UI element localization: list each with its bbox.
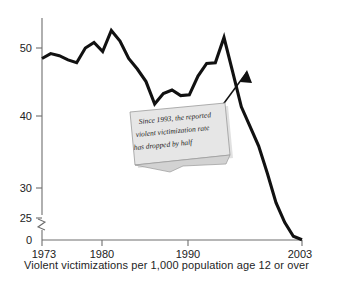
y-tick-label-30: 30 [20, 182, 32, 194]
chart-figure: 50 40 30 25 0 1973 1980 1990 2003 Since … [0, 0, 340, 281]
y-tick-label-25: 25 [20, 212, 32, 224]
annotation-callout: Since 1993, the reported violent victimi… [130, 103, 233, 172]
y-tick-label-40: 40 [20, 110, 32, 122]
y-axis-break-icon [38, 219, 45, 230]
line-chart-svg: 50 40 30 25 0 1973 1980 1990 2003 Since … [0, 0, 340, 281]
annotation-arrow-head-icon [240, 70, 252, 83]
chart-caption: Violent victimizations per 1,000 populat… [24, 259, 309, 271]
y-tick-label-0: 0 [26, 234, 32, 246]
y-tick-label-50: 50 [20, 42, 32, 54]
